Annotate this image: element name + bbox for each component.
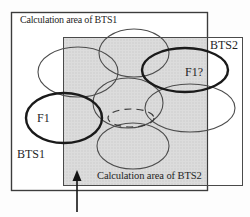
f1-cell-label: F1 <box>37 112 50 124</box>
overlap-shaded-region <box>64 38 208 185</box>
bts1-area-title: Calculation area of BTS1 <box>20 15 117 25</box>
bts2-label: BTS2 <box>210 39 238 51</box>
bts2-area-title: Calculation area of BTS2 <box>97 171 202 182</box>
figure-canvas: Calculation area of BTS1 Calculation are… <box>0 0 250 217</box>
diagram-svg <box>0 0 250 217</box>
bts1-label: BTS1 <box>17 148 45 160</box>
f1-question-cell-label: F1? <box>185 66 203 78</box>
